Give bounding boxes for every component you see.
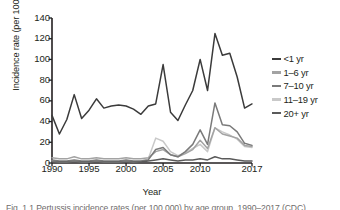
y-axis-tick-labels: 020406080100120140 <box>14 0 50 210</box>
data-series-group <box>52 34 252 162</box>
y-tick-label: 100 <box>34 53 50 64</box>
y-tick-label: 80 <box>40 74 50 85</box>
legend-swatch-icon <box>272 98 281 100</box>
y-tick-label: 20 <box>40 136 50 147</box>
legend-swatch-icon <box>272 58 281 60</box>
legend-swatch-icon <box>272 71 281 73</box>
y-tick-label: 140 <box>34 12 50 23</box>
legend-swatch-icon <box>272 112 281 114</box>
legend-item-label: 7–10 yr <box>284 80 314 91</box>
series-line <box>52 34 252 134</box>
legend-item-label: 11–19 yr <box>284 94 318 105</box>
figure-caption: Fig. 1.1 Pertussis incidence rates (per … <box>6 203 336 210</box>
axis-lines <box>52 18 252 163</box>
legend-item-label: 1–6 yr <box>284 67 309 78</box>
x-tick-label: 1995 <box>79 163 100 174</box>
x-tick-label: 2017 <box>242 163 263 174</box>
chart-legend: <1 yr1–6 yr7–10 yr11–19 yr20+ yr <box>272 52 340 120</box>
x-tick-label: 1990 <box>42 163 63 174</box>
x-axis-tick-labels: 199019952000200520102017 <box>0 163 340 177</box>
y-tick-label: 60 <box>40 94 50 105</box>
y-tick-label: 120 <box>34 32 50 43</box>
legend-item[interactable]: 1–6 yr <box>272 66 340 80</box>
legend-item-label: 20+ yr <box>284 108 309 119</box>
legend-item[interactable]: 20+ yr <box>272 106 340 120</box>
x-tick-label: 2000 <box>116 163 137 174</box>
legend-item[interactable]: 7–10 yr <box>272 79 340 93</box>
x-tick-label: 2010 <box>190 163 211 174</box>
y-tick-label: 40 <box>40 115 50 126</box>
figure-container: Incidence rate (per 100,000) 02040608010… <box>0 0 340 210</box>
x-axis-label: Year <box>52 186 252 197</box>
x-tick-label: 2005 <box>153 163 174 174</box>
legend-item[interactable]: 11–19 yr <box>272 93 340 107</box>
legend-item[interactable]: <1 yr <box>272 52 340 66</box>
legend-swatch-icon <box>272 85 281 87</box>
legend-item-label: <1 yr <box>284 53 304 64</box>
